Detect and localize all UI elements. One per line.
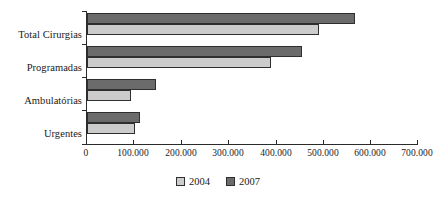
chart-screenshot: Total Cirurgias Programadas Ambulatórias… bbox=[0, 0, 436, 199]
bar-ambulatorias-2004 bbox=[87, 90, 131, 101]
legend-swatch-2004 bbox=[176, 177, 185, 186]
y-axis-tick bbox=[82, 44, 86, 45]
x-tick-label: 400.000 bbox=[260, 148, 292, 159]
bar-programadas-2007 bbox=[87, 46, 302, 57]
legend-entry-2004: 2004 bbox=[176, 176, 210, 187]
x-tick-label: 300.000 bbox=[212, 148, 244, 159]
x-axis-tick bbox=[133, 140, 134, 145]
x-axis-tick bbox=[370, 140, 371, 145]
chart-legend: 2004 2007 bbox=[0, 173, 436, 189]
legend-entry-2007: 2007 bbox=[226, 176, 260, 187]
bar-total-cirurgias-2007 bbox=[87, 13, 355, 24]
bar-ambulatorias-2007 bbox=[87, 79, 156, 90]
category-label-total-cirurgias: Total Cirurgias bbox=[0, 29, 82, 40]
category-label-ambulatorias: Ambulatórias bbox=[0, 95, 82, 106]
x-axis-line bbox=[86, 144, 418, 145]
x-tick-label: 600.000 bbox=[354, 148, 386, 159]
x-tick-label: 100.000 bbox=[117, 148, 149, 159]
x-axis-tick-labels: 0 100.000 200.000 300.000 400.000 500.00… bbox=[86, 148, 426, 162]
category-label-urgentes: Urgentes bbox=[0, 128, 82, 139]
x-tick-label: 200.000 bbox=[165, 148, 197, 159]
y-axis-tick bbox=[82, 77, 86, 78]
category-label-programadas: Programadas bbox=[0, 62, 82, 73]
x-axis-tick bbox=[323, 140, 324, 145]
legend-swatch-2007 bbox=[226, 177, 235, 186]
y-axis-tick bbox=[82, 11, 86, 12]
x-axis-tick bbox=[86, 140, 87, 145]
x-tick-label: 500.000 bbox=[307, 148, 339, 159]
x-tick-label: 700.000 bbox=[401, 148, 433, 159]
bar-programadas-2004 bbox=[87, 57, 271, 68]
bar-urgentes-2007 bbox=[87, 112, 140, 123]
x-axis-tick bbox=[228, 140, 229, 145]
bar-urgentes-2004 bbox=[87, 123, 135, 134]
plot-area bbox=[86, 11, 418, 145]
legend-label-2007: 2007 bbox=[239, 176, 260, 187]
x-axis-tick bbox=[417, 140, 418, 145]
x-axis-tick bbox=[276, 140, 277, 145]
x-tick-label: 0 bbox=[84, 148, 89, 159]
y-axis-tick bbox=[82, 110, 86, 111]
bar-total-cirurgias-2004 bbox=[87, 24, 319, 35]
x-axis-tick bbox=[181, 140, 182, 145]
category-axis-labels: Total Cirurgias Programadas Ambulatórias… bbox=[0, 11, 82, 145]
legend-label-2004: 2004 bbox=[189, 176, 210, 187]
